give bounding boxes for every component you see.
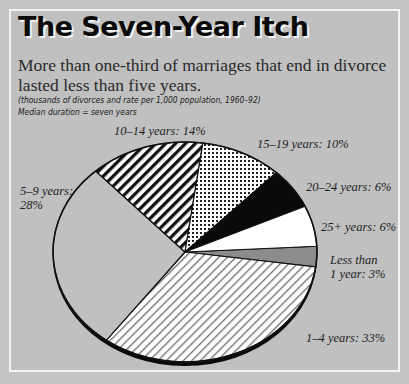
label-less-than-1: Less than 1 year: 3% [330,253,386,281]
pie-slices [53,142,317,362]
label-less-than-1-line1: Less than [330,253,386,267]
label-25-plus-years: 25+ years: 6% [321,220,396,234]
label-1-4-years: 1–4 years: 33% [306,331,385,345]
label-10-14-years: 10–14 years: 14% [114,124,206,138]
label-5-9-line2: 28% [20,198,73,212]
label-less-than-1-line2: 1 year: 3% [330,267,386,281]
label-5-9-line1: 5–9 years: [20,184,73,198]
label-15-19-years: 15–19 years: 10% [257,137,349,151]
label-5-9-years: 5–9 years: 28% [20,184,73,212]
label-20-24-years: 20–24 years: 6% [306,180,391,194]
